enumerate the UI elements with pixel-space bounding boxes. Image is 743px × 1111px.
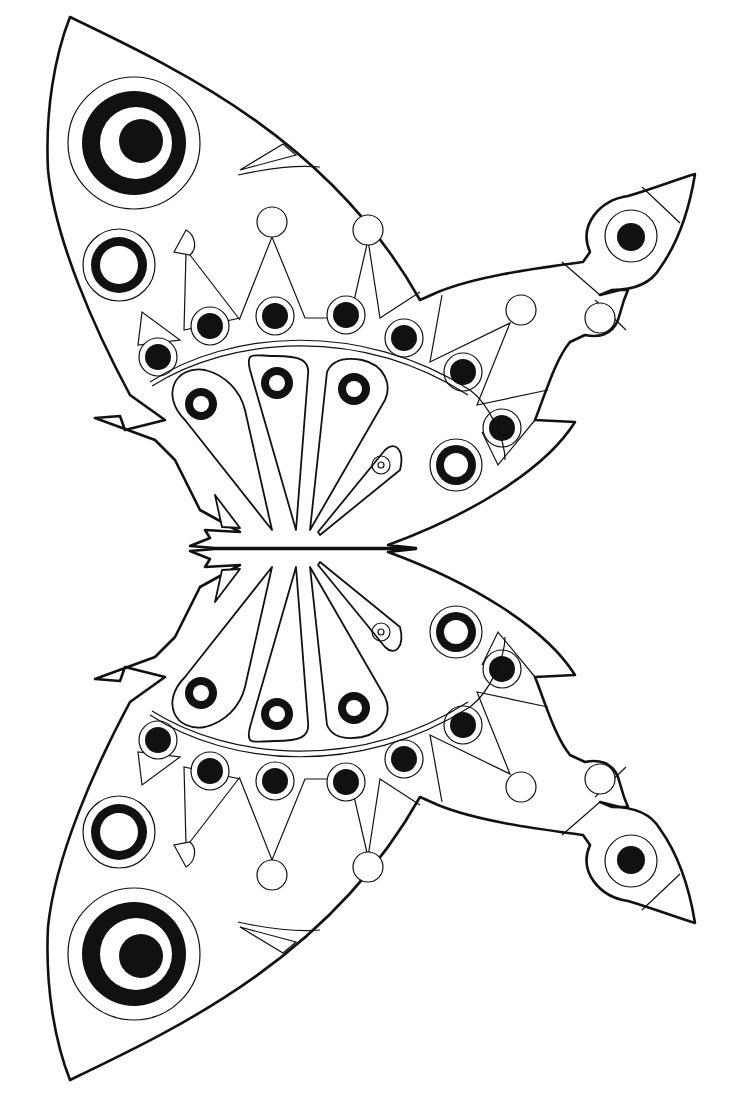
upper-wing [47, 17, 695, 548]
lower-wing [47, 549, 695, 1080]
coloring-page-canvas [0, 0, 743, 1111]
